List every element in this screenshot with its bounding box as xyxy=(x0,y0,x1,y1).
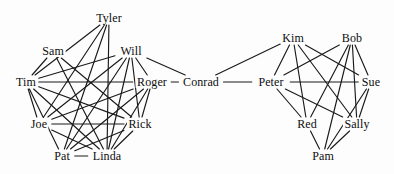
edge-roger-rick xyxy=(142,89,150,117)
edge-tim-joe xyxy=(28,89,37,117)
node-label-will[interactable]: Will xyxy=(119,45,143,57)
node-label-red[interactable]: Red xyxy=(296,118,319,130)
node-label-kim[interactable]: Kim xyxy=(281,32,306,44)
network-diagram: TylerSamWillTimRogerConradPeterKimBobSue… xyxy=(0,0,394,174)
node-label-tim[interactable]: Tim xyxy=(15,76,38,88)
node-label-roger[interactable]: Roger xyxy=(136,76,169,88)
edge-will-tim xyxy=(39,56,115,79)
node-label-pat[interactable]: Pat xyxy=(53,150,72,162)
node-label-sam[interactable]: Sam xyxy=(41,45,66,57)
node-label-rick[interactable]: Rick xyxy=(127,118,153,130)
edge-will-joe xyxy=(48,58,122,117)
node-label-linda[interactable]: Linda xyxy=(91,150,123,162)
edge-bob-sue xyxy=(355,45,368,75)
node-label-tyler[interactable]: Tyler xyxy=(95,12,124,24)
edge-peter-red xyxy=(277,89,301,117)
node-label-bob[interactable]: Bob xyxy=(340,32,363,44)
edge-red-pam xyxy=(311,131,320,149)
node-label-pam[interactable]: Pam xyxy=(311,150,336,162)
node-label-conrad[interactable]: Conrad xyxy=(182,76,221,88)
edge-bob-red xyxy=(311,45,349,117)
edge-will-roger xyxy=(136,58,148,75)
edge-will-conrad xyxy=(147,58,185,75)
edge-kim-red xyxy=(294,45,306,117)
node-label-sally[interactable]: Sally xyxy=(343,118,371,130)
edge-sam-tim xyxy=(32,58,47,75)
edge-conrad-kim xyxy=(216,44,281,75)
edge-peter-kim xyxy=(275,45,290,75)
node-label-peter[interactable]: Peter xyxy=(257,76,285,88)
node-label-sue[interactable]: Sue xyxy=(360,76,381,88)
node-label-joe[interactable]: Joe xyxy=(29,118,48,130)
